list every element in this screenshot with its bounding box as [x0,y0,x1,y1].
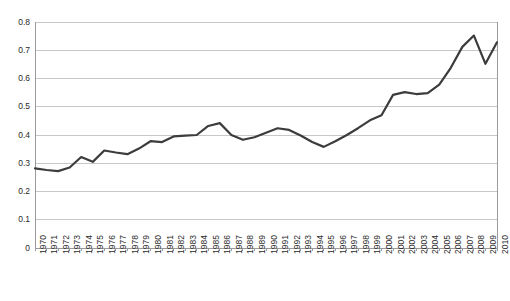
x-axis-tick-label: 1993 [304,235,313,254]
x-axis-tick-label: 1980 [154,235,163,254]
x-axis-tick-label: 2001 [397,235,406,254]
data-line-series-1 [35,36,497,172]
x-axis-tick-label: 1979 [142,235,151,254]
x-axis-tick-label: 2007 [466,235,475,254]
x-axis-tick-label: 1997 [350,235,359,254]
x-axis-tick-label: 1989 [258,235,267,254]
y-axis-tick-label: 0.3 [0,159,30,168]
y-axis-tick-label: 0.5 [0,102,30,111]
y-axis-tick-label: 0.6 [0,74,30,83]
x-axis-tick-label: 2006 [454,235,463,254]
x-axis-tick-label: 2008 [477,235,486,254]
x-axis-tick-label: 1999 [373,235,382,254]
x-axis-tick-label: 1978 [131,235,140,254]
x-axis-tick-label: 1991 [281,235,290,254]
gridlines-group [35,22,497,248]
y-axis-tick-label: 0.2 [0,187,30,196]
y-axis-tick-label: 0.7 [0,46,30,55]
x-axis-tick-label: 1995 [327,235,336,254]
x-axis-tick-label: 1972 [62,235,71,254]
x-axis-tick-label: 1996 [339,235,348,254]
x-axis-tick-label: 2009 [489,235,498,254]
x-axis-tick-label: 1973 [73,235,82,254]
x-axis-tick-label: 1986 [223,235,232,254]
x-axis-tick-label: 1992 [293,235,302,254]
x-axis-tick-label: 2010 [501,235,510,254]
y-axis-tick-label: 0.1 [0,215,30,224]
x-axis-tick-label: 1976 [108,235,117,254]
x-axis-tick-label: 2003 [420,235,429,254]
x-axis-tick-label: 1998 [362,235,371,254]
x-axis-tick-label: 1971 [50,235,59,254]
x-axis-tick-label: 1985 [212,235,221,254]
x-axis-tick-label: 1974 [85,235,94,254]
x-axis-tick-label: 2000 [385,235,394,254]
x-axis-tick-label: 1994 [316,235,325,254]
x-axis-tick-label: 2005 [443,235,452,254]
x-axis-tick-label: 1977 [119,235,128,254]
x-axis-tick-label: 2004 [431,235,440,254]
data-series-group [35,36,497,172]
x-axis-tick-label: 1987 [235,235,244,254]
x-axis-tick-label: 1988 [246,235,255,254]
x-axis-tick-label: 1983 [189,235,198,254]
y-axis-tick-label: 0 [0,244,30,253]
y-axis-tick-label: 0.4 [0,131,30,140]
x-axis-tick-label: 1970 [39,235,48,254]
x-axis-tick-label: 2002 [408,235,417,254]
x-axis-tick-label: 1982 [177,235,186,254]
y-axis-tick-label: 0.8 [0,18,30,27]
x-axis-tick-label: 1984 [200,235,209,254]
x-axis-tick-label: 1975 [96,235,105,254]
x-axis-tick-label: 1981 [166,235,175,254]
x-axis-tick-label: 1990 [270,235,279,254]
